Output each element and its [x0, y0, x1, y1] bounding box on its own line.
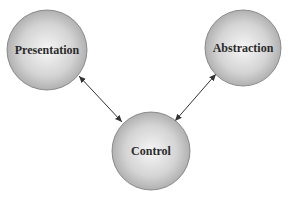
node-abstraction: Abstraction [205, 10, 281, 86]
node-presentation: Presentation [7, 10, 87, 90]
node-label: Abstraction [213, 41, 274, 55]
node-control: Control [112, 112, 190, 190]
node-label: Control [131, 144, 171, 158]
node-label: Presentation [15, 43, 80, 57]
edge-presentation-control [79, 76, 122, 122]
pac-diagram: Presentation Abstraction Control [0, 0, 297, 197]
edge-abstraction-control [175, 74, 216, 121]
